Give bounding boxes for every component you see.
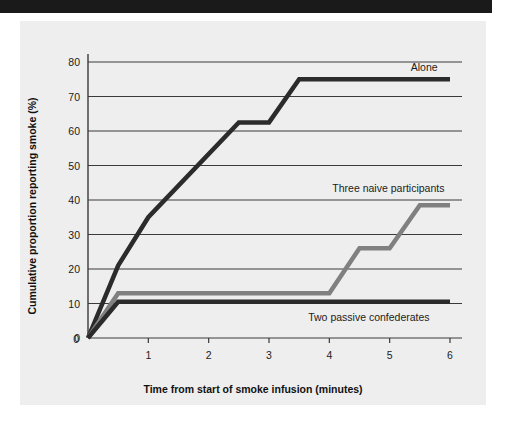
x-tick-label: 3 — [266, 349, 272, 361]
y-tick-label: 60 — [68, 125, 80, 137]
series-label-group: AloneThree naive participantsTwo passive… — [308, 61, 444, 323]
x-tick-label: 2 — [206, 349, 212, 361]
x-tick-label: 4 — [326, 349, 332, 361]
y-tick-label-group: 01020304050607080 — [68, 56, 80, 344]
x-tick-group — [148, 338, 450, 343]
series-label-0: Alone — [411, 61, 438, 73]
series-line-0 — [88, 79, 450, 338]
x-tick-label-group: 0123456 — [73, 333, 453, 361]
chart-panel: 01020304050607080 0123456 AloneThree nai… — [20, 21, 486, 405]
figure-root: 01020304050607080 0123456 AloneThree nai… — [0, 0, 511, 431]
series-line-group — [88, 79, 450, 338]
series-label-1: Three naive participants — [332, 182, 444, 194]
y-tick-label: 30 — [68, 229, 80, 241]
x-tick-label: 6 — [447, 349, 453, 361]
y-tick-label: 40 — [68, 194, 80, 206]
y-axis-title: Cumulative proportion reporting smoke (%… — [26, 97, 38, 314]
x-axis-title: Time from start of smoke infusion (minut… — [143, 383, 362, 395]
x-tick-label: 0 — [73, 333, 79, 345]
series-label-2: Two passive confederates — [308, 311, 429, 323]
y-tick-label: 50 — [68, 160, 80, 172]
y-tick-label: 10 — [68, 298, 80, 310]
line-chart: 01020304050607080 0123456 AloneThree nai… — [20, 21, 486, 405]
y-tick-label: 20 — [68, 263, 80, 275]
top-banner-bar — [0, 0, 492, 13]
y-tick-label: 80 — [68, 56, 80, 68]
y-tick-label: 70 — [68, 91, 80, 103]
x-tick-label: 1 — [145, 349, 151, 361]
x-tick-label: 5 — [387, 349, 393, 361]
